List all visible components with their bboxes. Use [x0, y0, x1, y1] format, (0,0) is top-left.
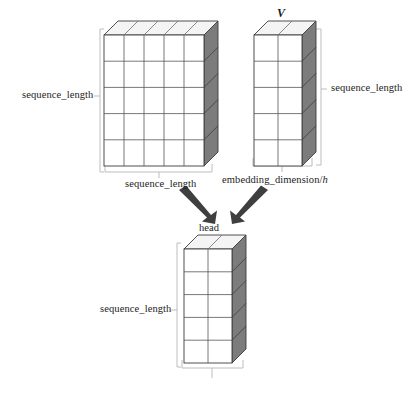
value-side-face [302, 21, 316, 166]
bracket-value-right [316, 29, 321, 165]
attention-side-face [204, 21, 218, 166]
value-matrix-cuboid [254, 21, 316, 166]
arrow-from-attention-to-head [179, 186, 217, 225]
bracket-attention-left [100, 29, 104, 172]
multi-head-attention-diagram [0, 0, 417, 400]
label-value-embedding-dimension: embedding_dimension/h [222, 174, 328, 185]
label-value-sequence-length-right: sequence_length [331, 82, 402, 93]
label-attention-sequence-length-left: sequence_length [22, 89, 93, 100]
arrow-from-value-to-head [230, 186, 268, 225]
attention-matrix-cuboid [104, 21, 218, 166]
label-head-sequence-length-left: sequence_length [100, 303, 171, 314]
label-value-matrix-v: V [277, 6, 285, 21]
attention-top-face [104, 21, 218, 35]
attention-front-face [104, 35, 204, 166]
diagram-canvas: sequence_length sequence_length V sequen… [0, 0, 417, 400]
label-attention-sequence-length-bottom: sequence_length [125, 178, 196, 189]
arrows-group [179, 186, 268, 225]
head-output-cuboid [184, 235, 246, 363]
head-side-face [232, 235, 246, 363]
bracket-head-left [177, 243, 181, 367]
label-head: head [199, 222, 219, 233]
label-embedding-dimension-text: embedding_dimension/ [222, 174, 323, 185]
label-embedding-dimension-h: h [323, 174, 328, 185]
